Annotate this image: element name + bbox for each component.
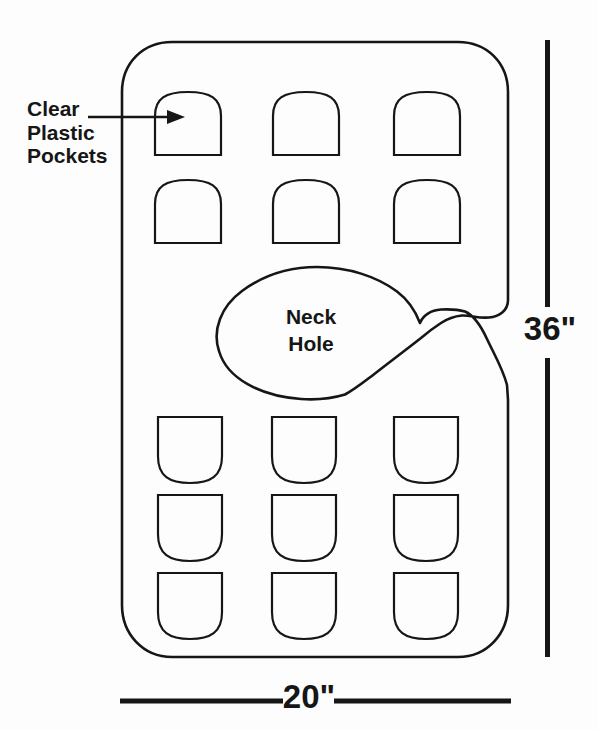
diagram-canvas: Clear Plastic Pockets Neck Hole 36" 20" xyxy=(0,0,597,730)
upper-pocket xyxy=(394,92,460,155)
lower-pocket xyxy=(272,573,336,639)
height-dimension-label: 36" xyxy=(522,312,578,345)
upper-pocket xyxy=(394,180,460,243)
arrow-head-icon xyxy=(167,110,185,124)
pocket-label-line-3: Pockets xyxy=(27,144,108,168)
neck-hole-label: Neck Hole xyxy=(251,303,371,357)
lower-pocket xyxy=(394,573,458,639)
upper-pocket xyxy=(273,92,339,155)
upper-pocket xyxy=(155,180,221,243)
upper-pocket xyxy=(155,92,221,155)
lower-pocket xyxy=(272,495,336,561)
pockets-layer xyxy=(155,92,460,639)
upper-pocket xyxy=(273,180,339,243)
pocket-label-line-2: Plastic xyxy=(27,121,108,145)
clear-plastic-pockets-label: Clear Plastic Pockets xyxy=(27,97,108,168)
lower-pocket xyxy=(158,573,222,639)
pocket-label-line-1: Clear xyxy=(27,97,108,121)
width-dimension-label: 20" xyxy=(281,680,337,713)
lower-pocket xyxy=(158,495,222,561)
lower-pocket xyxy=(394,495,458,561)
neck-label-line-2: Hole xyxy=(251,330,371,357)
neck-label-line-1: Neck xyxy=(251,303,371,330)
lower-pocket xyxy=(394,417,458,483)
lower-pocket xyxy=(158,417,222,483)
lower-pocket xyxy=(272,417,336,483)
